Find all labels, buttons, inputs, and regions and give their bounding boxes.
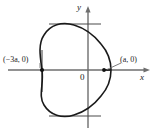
cardioid-figure: y x 0 (−3a, 0) (a, 0)	[0, 0, 152, 134]
y-axis-label: y	[77, 3, 81, 12]
cardioid-plot	[0, 0, 152, 134]
cusp-label: (a, 0)	[120, 56, 137, 64]
origin-label: 0	[80, 73, 85, 82]
left-vertex-label: (−3a, 0)	[3, 56, 28, 64]
cusp-leader-line	[107, 63, 121, 70]
x-axis-label: x	[140, 73, 144, 82]
left-vertex-point	[40, 68, 44, 72]
x-axis-arrowhead	[144, 67, 151, 72]
cusp-point	[102, 68, 106, 72]
y-axis-arrowhead	[85, 6, 90, 13]
